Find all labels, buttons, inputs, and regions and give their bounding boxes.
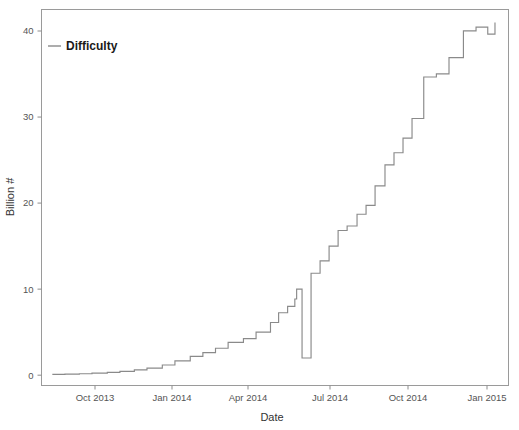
x-tick-label: Oct 2013 bbox=[76, 392, 115, 403]
x-tick-label: Jul 2014 bbox=[312, 392, 348, 403]
y-axis-title: Billion # bbox=[4, 177, 16, 216]
difficulty-line-chart: 010203040 Oct 2013Jan 2014Apr 2014Jul 20… bbox=[0, 0, 519, 430]
y-tick-label: 30 bbox=[23, 111, 34, 122]
y-tick-label: 0 bbox=[28, 370, 33, 381]
chart-container: 010203040 Oct 2013Jan 2014Apr 2014Jul 20… bbox=[0, 0, 519, 430]
chart-background bbox=[0, 0, 519, 430]
y-tick-label: 40 bbox=[23, 25, 34, 36]
y-tick-label: 10 bbox=[23, 284, 34, 295]
legend-label-difficulty: Difficulty bbox=[66, 39, 118, 53]
x-tick-label: Jan 2015 bbox=[467, 392, 506, 403]
x-tick-label: Jan 2014 bbox=[152, 392, 191, 403]
x-tick-label: Oct 2014 bbox=[389, 392, 428, 403]
x-axis-title: Date bbox=[260, 411, 283, 423]
x-tick-label: Apr 2014 bbox=[229, 392, 268, 403]
y-tick-label: 20 bbox=[23, 197, 34, 208]
